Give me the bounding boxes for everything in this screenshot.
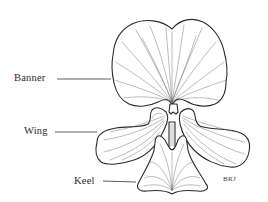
keel-leader-line: [103, 181, 136, 182]
banner-label: Banner: [14, 73, 46, 84]
artist-signature: BRJ: [223, 176, 236, 183]
flower-illustration: [0, 0, 268, 202]
wing-label: Wing: [24, 126, 48, 137]
keel-label: Keel: [74, 176, 95, 187]
banner-petal: [112, 19, 227, 106]
flower-diagram: Banner Wing Keel BRJ: [0, 0, 268, 202]
